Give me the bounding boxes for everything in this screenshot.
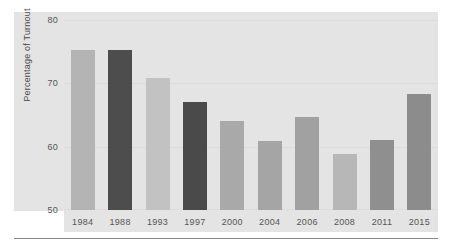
- x-tick-label-1997: 1997: [176, 217, 213, 227]
- bar-2008[interactable]: [333, 154, 357, 210]
- bar-2011[interactable]: [370, 140, 394, 210]
- x-tick-label-2006: 2006: [288, 217, 325, 227]
- bar-slot: [214, 20, 251, 210]
- bottom-rule: [14, 238, 438, 239]
- x-tick-label-1988: 1988: [101, 217, 138, 227]
- x-tick-label-2008: 2008: [326, 217, 363, 227]
- bar-slot: [401, 20, 438, 210]
- x-tick-label-1984: 1984: [64, 217, 101, 227]
- y-axis-tick-labels: 80 70 60 50: [26, 20, 58, 210]
- bar-slot: [176, 20, 213, 210]
- bar-slot: [363, 20, 400, 210]
- bar-series: [64, 20, 438, 210]
- y-tick-label-60: 60: [28, 142, 58, 152]
- bar-1984[interactable]: [71, 50, 95, 210]
- bar-1997[interactable]: [183, 102, 207, 210]
- x-axis-tick-labels: 1984198819931997200020042006200820112015: [64, 213, 438, 231]
- y-tick-label-70: 70: [28, 78, 58, 88]
- bar-chart-figure: Percentage of Turnout 80 70 60 50 198419…: [0, 0, 453, 248]
- bar-2015[interactable]: [407, 94, 431, 210]
- bar-2000[interactable]: [220, 121, 244, 210]
- bar-slot: [326, 20, 363, 210]
- bar-1993[interactable]: [146, 78, 170, 210]
- plot-area: [64, 20, 438, 210]
- bar-2006[interactable]: [295, 117, 319, 210]
- x-tick-label-2011: 2011: [363, 217, 400, 227]
- bar-slot: [64, 20, 101, 210]
- bar-slot: [251, 20, 288, 210]
- bar-slot: [288, 20, 325, 210]
- y-tick-label-80: 80: [28, 15, 58, 25]
- x-tick-label-2015: 2015: [401, 217, 438, 227]
- y-tick-label-50: 50: [28, 205, 58, 215]
- x-tick-label-2004: 2004: [251, 217, 288, 227]
- bar-1988[interactable]: [108, 50, 132, 210]
- x-tick-label-2000: 2000: [214, 217, 251, 227]
- x-tick-label-1993: 1993: [139, 217, 176, 227]
- bar-2004[interactable]: [258, 141, 282, 210]
- bar-slot: [139, 20, 176, 210]
- bar-slot: [101, 20, 138, 210]
